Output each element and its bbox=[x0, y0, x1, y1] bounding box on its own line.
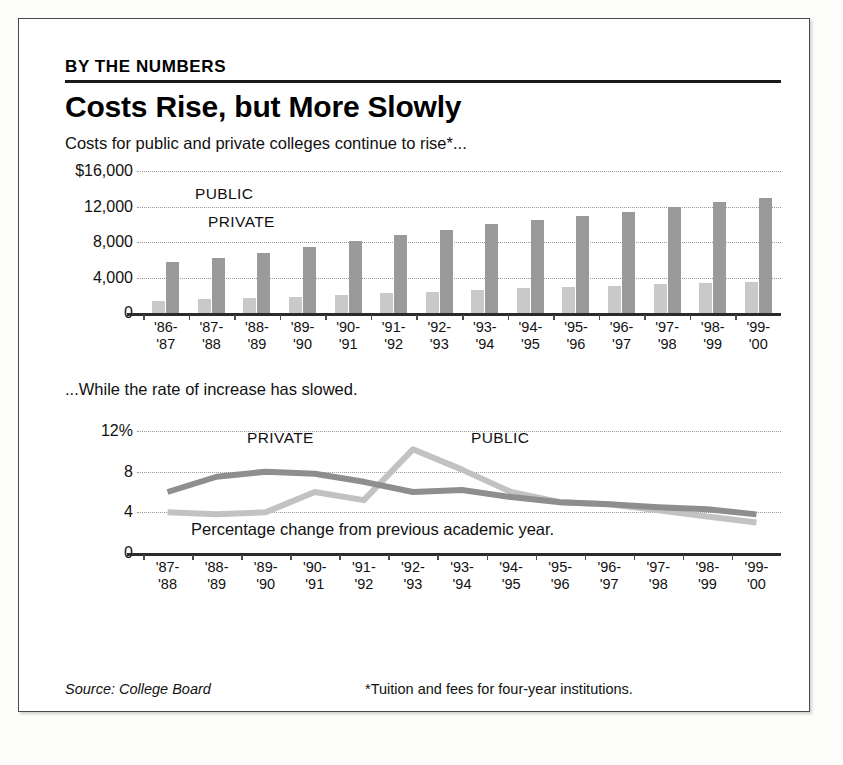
bar-group bbox=[143, 171, 189, 313]
bar-x-label: '94-'95 bbox=[508, 319, 554, 353]
bar-x-label: '91-'92 bbox=[371, 319, 417, 353]
bar-private bbox=[485, 224, 498, 313]
page-title: Costs Rise, but More Slowly bbox=[65, 90, 805, 124]
bar-y-tick-label: $16,000 bbox=[75, 162, 133, 180]
bar-private bbox=[440, 230, 453, 313]
line-x-label: '99-'00 bbox=[732, 559, 781, 593]
article-frame: BY THE NUMBERS Costs Rise, but More Slow… bbox=[18, 18, 810, 712]
line-series-public bbox=[168, 449, 757, 522]
bar-group bbox=[553, 171, 599, 313]
line-x-label: '93-'94 bbox=[437, 559, 486, 593]
bar-public bbox=[745, 282, 758, 313]
bar-group bbox=[371, 171, 417, 313]
clipping-page: BY THE NUMBERS Costs Rise, but More Slow… bbox=[0, 0, 843, 765]
bar-group bbox=[416, 171, 462, 313]
bar-y-tick-label: 8,000 bbox=[93, 233, 133, 251]
line-x-label: '88-'89 bbox=[192, 559, 241, 593]
bar-group bbox=[325, 171, 371, 313]
footnote-text: *Tuition and fees for four-year institut… bbox=[365, 681, 633, 697]
line-x-label: '98-'99 bbox=[683, 559, 732, 593]
bar-x-label: '99-'00 bbox=[736, 319, 782, 353]
bar-group bbox=[599, 171, 645, 313]
article-inner: BY THE NUMBERS Costs Rise, but More Slow… bbox=[65, 57, 805, 717]
bar-public bbox=[608, 286, 621, 314]
line-chart-x-axis: '87-'88'88-'89'89-'90'90-'91'91-'92'92-'… bbox=[143, 559, 781, 593]
line-x-label: '90-'91 bbox=[290, 559, 339, 593]
bar-group bbox=[508, 171, 554, 313]
bar-group bbox=[462, 171, 508, 313]
cost-bar-chart: 04,0008,00012,000$16,000 '86-'87'87-'88'… bbox=[65, 163, 781, 353]
bar-private bbox=[349, 241, 362, 313]
line-x-label: '91-'92 bbox=[339, 559, 388, 593]
bar-x-label: '87-'88 bbox=[189, 319, 235, 353]
line-chart-plot bbox=[65, 407, 781, 567]
bar-x-label: '89-'90 bbox=[280, 319, 326, 353]
bar-x-label: '97-'98 bbox=[644, 319, 690, 353]
header-rule bbox=[65, 80, 781, 83]
bar-private bbox=[713, 202, 726, 313]
bar-private bbox=[759, 198, 772, 313]
line-x-label: '89-'90 bbox=[241, 559, 290, 593]
bar-x-label: '96-'97 bbox=[599, 319, 645, 353]
mid-note: ...While the rate of increase has slowed… bbox=[65, 379, 805, 399]
bar-group bbox=[735, 171, 781, 313]
bar-public bbox=[517, 288, 530, 313]
bar-public bbox=[654, 284, 667, 313]
bar-public bbox=[380, 293, 393, 313]
footer: Source: College Board *Tuition and fees … bbox=[65, 681, 781, 697]
line-legend-private: PRIVATE bbox=[247, 429, 314, 447]
line-x-label: '92-'93 bbox=[388, 559, 437, 593]
bar-x-label: '86-'87 bbox=[143, 319, 189, 353]
line-x-label: '94-'95 bbox=[487, 559, 536, 593]
kicker: BY THE NUMBERS bbox=[65, 57, 805, 80]
bar-private bbox=[622, 212, 635, 313]
rate-line-chart: 04812% Percentage change from previous a… bbox=[65, 407, 781, 599]
bar-y-tick-label: 12,000 bbox=[84, 198, 133, 216]
bar-y-tick-label: 4,000 bbox=[93, 269, 133, 287]
bar-x-label: '98-'99 bbox=[690, 319, 736, 353]
bar-private bbox=[576, 216, 589, 313]
bar-private bbox=[668, 207, 681, 314]
bar-chart-axis bbox=[127, 313, 781, 316]
source-text: Source: College Board bbox=[65, 681, 211, 697]
bar-public bbox=[699, 283, 712, 313]
bar-public bbox=[243, 298, 256, 313]
line-series-private bbox=[168, 472, 757, 515]
bar-x-label: '93-'94 bbox=[462, 319, 508, 353]
bar-public bbox=[198, 299, 211, 313]
bar-public bbox=[335, 295, 348, 313]
bar-private bbox=[257, 253, 270, 313]
bar-public bbox=[426, 292, 439, 313]
bar-x-label: '90-'91 bbox=[325, 319, 371, 353]
bar-chart-x-axis: '86-'87'87-'88'88-'89'89-'90'90-'91'91-'… bbox=[143, 319, 781, 353]
bar-private bbox=[394, 235, 407, 313]
bar-public bbox=[289, 297, 302, 313]
bar-private bbox=[166, 262, 179, 313]
bar-group bbox=[280, 171, 326, 313]
bar-private bbox=[531, 220, 544, 313]
line-x-label: '97-'98 bbox=[634, 559, 683, 593]
line-x-label: '96-'97 bbox=[585, 559, 634, 593]
bar-public bbox=[562, 287, 575, 313]
bar-private bbox=[212, 258, 225, 313]
bar-x-label: '88-'89 bbox=[234, 319, 280, 353]
bar-x-label: '95-'96 bbox=[553, 319, 599, 353]
line-x-label: '87-'88 bbox=[143, 559, 192, 593]
bar-private bbox=[303, 247, 316, 313]
bar-public bbox=[471, 290, 484, 313]
bar-public bbox=[152, 301, 165, 313]
bar-group bbox=[690, 171, 736, 313]
bar-x-label: '92-'93 bbox=[416, 319, 462, 353]
line-x-label: '95-'96 bbox=[536, 559, 585, 593]
line-legend-public: PUBLIC bbox=[471, 429, 529, 447]
percent-change-note: Percentage change from previous academic… bbox=[191, 520, 554, 539]
bar-legend-private: PRIVATE bbox=[208, 213, 275, 231]
deck-text: Costs for public and private colleges co… bbox=[65, 133, 805, 153]
bar-legend-public: PUBLIC bbox=[195, 185, 253, 203]
bar-group bbox=[644, 171, 690, 313]
